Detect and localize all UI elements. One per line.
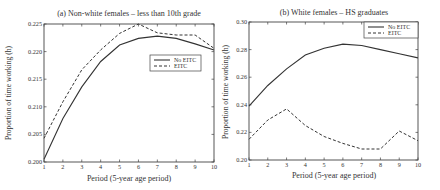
y-tick-label: 0.20 [236,156,247,163]
x-tick-label: 9 [194,163,197,170]
plot-lines [44,24,214,159]
plot-area [249,22,418,160]
series-line-eitc [249,109,418,149]
legend-label: EITC [388,30,401,36]
y-tick-label: 0.26 [236,73,247,80]
chart-title: (a) Non-white females – less than 10th g… [57,9,201,18]
y-tick-label: 0.28 [236,46,247,53]
y-tick-label: 0.220 [28,48,42,55]
panel-a-chart: (a) Non-white females – less than 10th g… [4,9,217,183]
series-line-no-eitc [44,36,214,159]
x-axis-label: Period (5-year age period) [87,174,172,183]
plot-lines [249,44,418,149]
y-tick-label: 0.22 [236,128,247,135]
x-tick-label: 5 [118,163,121,170]
x-tick-label: 1 [42,163,45,170]
y-tick-label: 0.200 [28,158,42,165]
x-tick-label: 10 [415,161,421,168]
x-tick-label: 10 [211,163,217,170]
x-axis-label: Period (5-year age period) [292,171,377,180]
y-tick-label: 0.205 [28,130,42,137]
y-tick-label: 0.210 [28,103,42,110]
series-line-no-eitc [249,44,418,106]
panel-b-chart: (b) White females – HS graduates 1234567… [221,8,421,180]
x-tick-label: 6 [137,163,140,170]
x-tick-label: 3 [285,161,288,168]
y-tick-label: 0.225 [28,20,42,27]
x-tick-label: 2 [61,163,64,170]
x-tick-label: 4 [304,161,307,168]
y-axis-label: Proportion of time working (h) [221,45,230,140]
figure: (a) Non-white females – less than 10th g… [0,0,440,190]
x-tick-label: 3 [80,163,83,170]
legend: No EITCEITC [150,55,201,71]
x-tick-label: 4 [99,163,102,170]
x-tick-label: 7 [360,161,363,168]
x-tick-label: 8 [175,163,178,170]
y-tick-label: 0.30 [236,18,247,25]
legend-label: EITC [174,63,187,69]
x-tick-label: 1 [247,161,250,168]
legend: No EITCEITC [364,22,418,38]
y-tick-label: 0.215 [28,75,42,82]
x-tick-label: 9 [398,161,401,168]
x-tick-label: 5 [323,161,326,168]
chart-title: (b) White females – HS graduates [280,8,388,17]
x-tick-label: 7 [156,163,159,170]
y-axis-label: Proportion of time working (h) [4,46,13,141]
x-tick-label: 8 [379,161,382,168]
x-tick-label: 2 [266,161,269,168]
plot-area [44,24,214,162]
axis-ticks: 123456789100.200.220.240.260.280.30 [236,18,421,168]
x-tick-label: 6 [341,161,344,168]
y-tick-label: 0.24 [236,101,247,108]
